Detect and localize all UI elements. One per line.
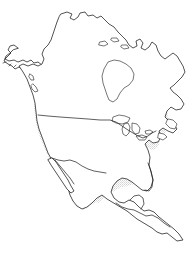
map-figure — [0, 0, 193, 255]
north-america-map — [0, 0, 193, 255]
